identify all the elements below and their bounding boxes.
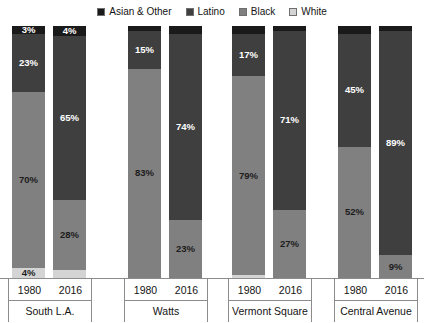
bar-segment[interactable]: 17% (232, 34, 265, 77)
bar-segment[interactable]: 45% (338, 34, 371, 147)
axis-group-label: South L.A. (9, 300, 91, 322)
bar-segment[interactable]: 23% (12, 34, 45, 92)
bar-segment[interactable]: 27% (273, 210, 306, 278)
bar-group-vermont-square: 17%79%71%27% (228, 26, 312, 278)
legend-swatch-icon (97, 8, 105, 16)
bar-segment[interactable] (338, 26, 371, 34)
chart-legend: Asian & OtherLatinoBlackWhite (0, 7, 424, 17)
bar-group-watts: 15%83%74%23% (124, 26, 208, 278)
stacked-bar[interactable]: 17%79% (232, 26, 265, 278)
bar-segment-label: 23% (19, 58, 38, 68)
legend-item-label: Asian & Other (109, 7, 171, 17)
axis-year-label: 1980 (9, 284, 50, 296)
stacked-bar[interactable]: 71%27% (273, 26, 306, 278)
bar-segment[interactable]: 4% (53, 26, 86, 36)
bar-segment[interactable]: 89% (379, 31, 412, 255)
plot-area: 3%23%70%4%4%65%28%15%83%74%23%17%79%71%2… (0, 26, 424, 278)
legend-item-black[interactable]: Black (239, 7, 275, 17)
legend-item-asian-other[interactable]: Asian & Other (97, 7, 171, 17)
axis-year-row: 19802016 (9, 279, 91, 300)
axis-group-south-l-a: 19802016South L.A. (8, 279, 92, 322)
axis-year-label: 2016 (50, 284, 91, 296)
bar-segment-label: 89% (386, 138, 405, 148)
bar-segment-label: 15% (135, 45, 154, 55)
legend-item-latino[interactable]: Latino (186, 7, 225, 17)
bar-segment-label: 79% (239, 171, 258, 181)
bar-segment-label: 70% (19, 175, 38, 185)
bar-segment[interactable]: 74% (169, 34, 202, 220)
stacked-bar[interactable]: 74%23% (169, 26, 202, 278)
bar-segment-label: 65% (60, 113, 79, 123)
bar-segment[interactable]: 83% (128, 69, 161, 278)
legend-item-label: Black (251, 7, 275, 17)
axis-year-label: 1980 (125, 284, 166, 296)
legend-swatch-icon (289, 8, 297, 16)
bar-segment[interactable]: 79% (232, 76, 265, 275)
axis-year-label: 1980 (229, 284, 270, 296)
bar-segment-label: 74% (176, 122, 195, 132)
bar-segment-label: 52% (345, 207, 364, 217)
axis-year-row: 19802016 (125, 279, 207, 300)
bar-segment-label: 71% (280, 115, 299, 125)
stacked-bar[interactable]: 4%65%28% (53, 26, 86, 278)
axis-group-label: Watts (125, 300, 207, 322)
bar-segment[interactable] (169, 26, 202, 34)
legend-item-label: Latino (198, 7, 225, 17)
axis-year-row: 19802016 (335, 279, 417, 300)
axis-year-label: 1980 (335, 284, 376, 296)
bar-segment-label: 4% (22, 268, 36, 278)
bar-segment-label: 27% (280, 239, 299, 249)
stacked-bar-chart: Asian & OtherLatinoBlackWhite 3%23%70%4%… (0, 0, 424, 323)
bar-segment[interactable]: 23% (169, 220, 202, 278)
bar-segment-label: 9% (389, 262, 403, 272)
bar-segment[interactable]: 15% (128, 31, 161, 69)
axis-group-watts: 19802016Watts (124, 279, 208, 322)
stacked-bar[interactable]: 3%23%70%4% (12, 26, 45, 278)
stacked-bar[interactable]: 15%83% (128, 26, 161, 278)
axis-group-central-avenue: 19802016Central Avenue (334, 279, 418, 322)
axis-group-vermont-square: 19802016Vermont Square (228, 279, 312, 322)
bar-segment[interactable]: 70% (12, 92, 45, 268)
axis-year-row: 19802016 (229, 279, 311, 300)
axis-group-label: Vermont Square (229, 300, 311, 322)
bar-group-south-l-a: 3%23%70%4%4%65%28% (8, 26, 92, 278)
bar-segment[interactable]: 9% (379, 255, 412, 278)
bar-segment[interactable]: 52% (338, 147, 371, 278)
legend-swatch-icon (239, 8, 247, 16)
legend-item-white[interactable]: White (289, 7, 327, 17)
bar-segment-label: 17% (239, 50, 258, 60)
bar-segment-label: 3% (22, 26, 36, 34)
stacked-bar[interactable]: 89%9% (379, 26, 412, 278)
bar-segment[interactable]: 3% (12, 26, 45, 34)
bar-segment-label: 45% (345, 85, 364, 95)
bar-group-central-avenue: 45%52%89%9% (334, 26, 418, 278)
legend-swatch-icon (186, 8, 194, 16)
stacked-bar[interactable]: 45%52% (338, 26, 371, 278)
bar-segment[interactable]: 4% (12, 268, 45, 278)
bar-segment[interactable]: 28% (53, 200, 86, 271)
bar-segment[interactable]: 65% (53, 36, 86, 200)
axis-year-label: 2016 (166, 284, 207, 296)
axis-group-label: Central Avenue (335, 300, 417, 322)
bar-segment[interactable] (53, 270, 86, 278)
bar-segment-label: 83% (135, 168, 154, 178)
bar-segment[interactable]: 71% (273, 31, 306, 210)
bar-segment-label: 4% (63, 26, 77, 36)
bar-segment[interactable] (232, 26, 265, 34)
legend-item-label: White (301, 7, 327, 17)
axis-year-label: 2016 (376, 284, 417, 296)
category-axis: 19802016South L.A.19802016Watts19802016V… (0, 278, 424, 323)
bar-segment-label: 28% (60, 230, 79, 240)
axis-year-label: 2016 (270, 284, 311, 296)
bar-segment-label: 23% (176, 244, 195, 254)
